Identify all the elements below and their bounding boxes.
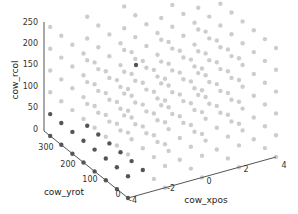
data-point xyxy=(215,60,219,64)
x-axis-label: cow_xpos xyxy=(184,195,228,205)
x-tick: 4 xyxy=(281,161,286,170)
data-point xyxy=(189,123,193,127)
data-point xyxy=(226,47,230,51)
data-point xyxy=(122,91,126,95)
data-point xyxy=(81,95,85,99)
data-point xyxy=(170,90,174,94)
data-point xyxy=(181,55,185,59)
data-point xyxy=(192,42,196,46)
data-point xyxy=(226,113,230,117)
data-point xyxy=(263,146,267,150)
data-point xyxy=(170,112,174,116)
data-point xyxy=(115,165,119,169)
y-tick: 200 xyxy=(60,160,75,169)
data-point xyxy=(81,51,85,55)
data-point xyxy=(133,79,137,83)
data-point xyxy=(178,70,182,74)
data-point xyxy=(115,143,119,147)
data-point xyxy=(107,76,111,80)
data-point xyxy=(274,111,278,115)
data-point xyxy=(237,78,241,82)
data-point xyxy=(122,4,126,8)
data-point xyxy=(152,90,156,94)
data-point xyxy=(218,45,222,49)
data-point xyxy=(96,45,100,49)
data-point xyxy=(122,113,126,117)
z-tick: 200 xyxy=(23,39,38,48)
data-point xyxy=(181,121,185,125)
data-point xyxy=(141,102,145,106)
data-point xyxy=(59,55,63,59)
scatter-3d-chart: 250 200 150 100 50 0 300 200 100 0 -4 -2… xyxy=(0,0,298,214)
data-point xyxy=(96,67,100,71)
data-point xyxy=(229,76,233,80)
plot-canvas: 250 200 150 100 50 0 300 200 100 0 -4 -2… xyxy=(0,0,298,214)
data-point xyxy=(126,152,130,156)
data-point xyxy=(170,3,174,7)
data-point xyxy=(196,6,200,10)
data-point xyxy=(252,72,256,76)
data-point xyxy=(129,72,133,76)
z-tick: 50 xyxy=(28,103,38,112)
data-point xyxy=(141,59,145,63)
data-point xyxy=(229,10,233,14)
data-point xyxy=(203,29,207,33)
data-point xyxy=(263,124,267,128)
data-point xyxy=(144,22,148,26)
data-point xyxy=(155,140,159,144)
data-point xyxy=(237,100,241,104)
data-point xyxy=(215,147,219,151)
data-point xyxy=(263,37,267,41)
data-point xyxy=(129,137,133,141)
data-point xyxy=(59,34,63,38)
x-tick: -4 xyxy=(129,196,137,205)
data-point xyxy=(178,92,182,96)
y-tick: 300 xyxy=(38,143,53,152)
data-point xyxy=(159,38,163,42)
data-point xyxy=(48,25,52,29)
data-point xyxy=(133,122,137,126)
x-tick: 0 xyxy=(206,177,211,186)
data-point xyxy=(163,77,167,81)
data-point xyxy=(237,56,241,60)
x-tick: -2 xyxy=(167,184,175,193)
data-point xyxy=(229,54,233,58)
data-point xyxy=(118,150,122,154)
data-point xyxy=(166,62,170,66)
data-point xyxy=(152,111,156,115)
data-point xyxy=(203,138,207,142)
data-point xyxy=(252,94,256,98)
data-point xyxy=(192,64,196,68)
data-point xyxy=(118,41,122,45)
data-point xyxy=(48,47,52,51)
data-point xyxy=(163,142,167,146)
data-point xyxy=(155,53,159,57)
data-point xyxy=(141,168,145,172)
data-point xyxy=(152,177,156,181)
data-point xyxy=(189,145,193,149)
z-tick: 250 xyxy=(23,18,38,27)
z-tick: 0 xyxy=(33,125,38,134)
data-point xyxy=(134,63,138,67)
data-point xyxy=(207,14,211,18)
data-point xyxy=(92,60,96,64)
data-point xyxy=(207,58,211,62)
data-point xyxy=(178,49,182,53)
data-point xyxy=(189,57,193,61)
data-point xyxy=(81,73,85,77)
data-point xyxy=(215,104,219,108)
data-point xyxy=(163,120,167,124)
data-point xyxy=(155,96,159,100)
data-point xyxy=(252,137,256,141)
data-point xyxy=(166,40,170,44)
data-point xyxy=(229,98,233,102)
data-point xyxy=(218,67,222,71)
data-point xyxy=(218,2,222,6)
data-point xyxy=(252,28,256,32)
data-point xyxy=(274,133,278,137)
data-point xyxy=(196,49,200,53)
data-point xyxy=(96,132,100,136)
data-point xyxy=(107,141,111,145)
data-point xyxy=(81,139,85,143)
data-point xyxy=(59,99,63,103)
